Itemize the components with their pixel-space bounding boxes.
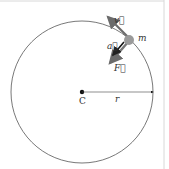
diagram-canvas: v⃗ a⃗ F⃗ m C r bbox=[0, 0, 169, 169]
force-label: F⃗ bbox=[113, 63, 126, 73]
radius-label: r bbox=[115, 94, 120, 104]
mass-particle bbox=[124, 35, 134, 45]
mass-label: m bbox=[138, 33, 147, 43]
acceleration-label: a⃗ bbox=[107, 41, 118, 51]
circular-motion-diagram: v⃗ a⃗ F⃗ m C r bbox=[0, 0, 169, 169]
velocity-label: v⃗ bbox=[114, 15, 125, 25]
center-label: C bbox=[79, 96, 86, 106]
